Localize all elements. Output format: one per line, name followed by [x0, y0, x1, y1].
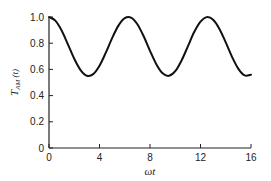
y-tick-label: 1.0: [30, 12, 44, 23]
plot-area: [49, 17, 251, 76]
x-tick-label: 16: [245, 152, 257, 163]
y-axis-label-suffix: (t): [10, 69, 20, 80]
y-tick-label: 0: [38, 143, 44, 154]
y-axis-label: TAM (t): [8, 69, 22, 96]
y-tick-label: 0.8: [30, 38, 44, 49]
x-tick-label: 12: [195, 152, 207, 163]
x-tick-label: 8: [147, 152, 153, 163]
axes: [49, 17, 251, 148]
x-axis-label: ωt: [145, 165, 157, 177]
x-tick-label: 4: [97, 152, 103, 163]
series-line: [49, 17, 251, 76]
y-tick-label: 0.4: [30, 90, 44, 101]
x-ticks: 0481216: [46, 144, 257, 163]
y-tick-label: 0.2: [30, 116, 44, 127]
y-tick-label: 0.6: [30, 64, 44, 75]
x-tick-label: 0: [46, 152, 52, 163]
chart: 00.20.40.60.81.0 0481216 ωt TAM (t): [0, 0, 271, 181]
